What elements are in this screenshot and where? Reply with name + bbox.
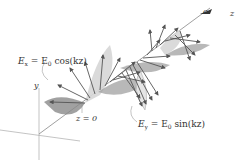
- y-axis-label: y: [34, 82, 39, 90]
- ex-equation-label: Ex = E0 cos(kz): [18, 57, 87, 67]
- origin-label: z = 0: [76, 115, 97, 123]
- x-axis-line: [0, 130, 80, 141]
- lobe-dark-1: [44, 97, 85, 114]
- wave-diagram: [0, 0, 241, 160]
- ey-equation-label: Ey = E0 sin(kz): [138, 120, 205, 130]
- c-label: c: [203, 8, 207, 16]
- z-axis-label: z: [230, 10, 234, 18]
- ey-leader-line: [131, 106, 137, 122]
- z-axis-line: [39, 8, 210, 134]
